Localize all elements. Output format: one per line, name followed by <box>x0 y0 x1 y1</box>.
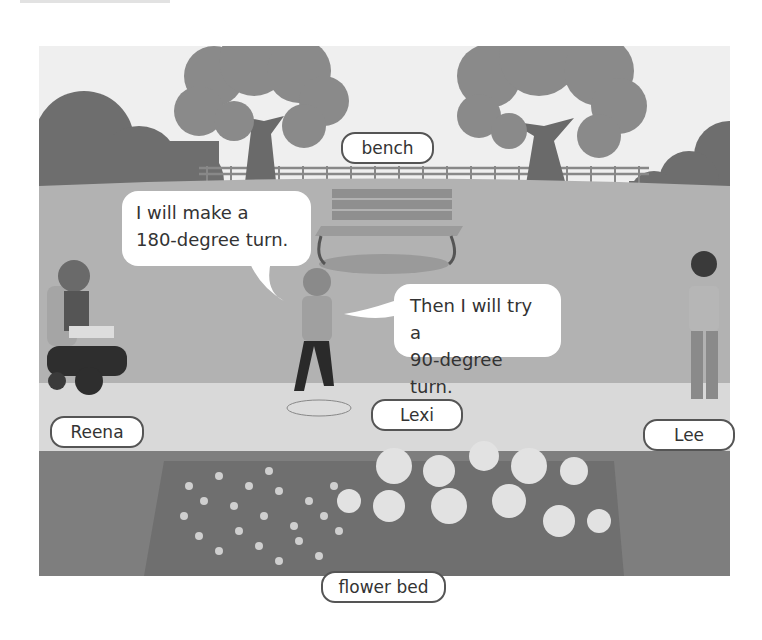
speech-bubble-90: Then I will try a 90-degree turn. <box>394 284 561 357</box>
speech-bubble-180: I will make a 180-degree turn. <box>122 191 311 266</box>
label-lee: Lee <box>643 419 735 451</box>
bubble-line: 90-degree turn. <box>410 346 547 400</box>
top-rule <box>20 0 170 3</box>
bubble-tails <box>39 46 730 576</box>
park-scene <box>39 46 730 576</box>
bubble-line: 180-degree turn. <box>136 226 297 253</box>
bubble-line: I will make a <box>136 199 297 226</box>
label-bench: bench <box>341 132 434 164</box>
label-lexi: Lexi <box>371 399 463 431</box>
label-flower-bed: flower bed <box>321 571 446 603</box>
bubble-line: Then I will try a <box>410 292 547 346</box>
label-reena: Reena <box>50 416 144 448</box>
